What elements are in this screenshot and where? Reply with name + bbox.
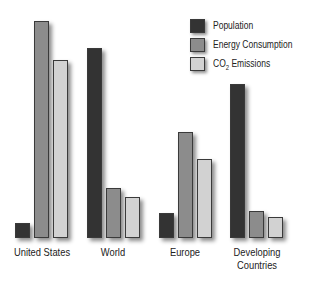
legend-label-population: Population [213,20,253,31]
bar-united-states-population [15,223,30,238]
category-label-developing-1: Developing [223,246,291,259]
legend-label-energy: Energy Consumption [213,39,292,50]
bar-united-states-energy-consumption [34,21,49,238]
bar-developing-countries-co2-emissions [268,217,283,238]
bar-developing-countries-population [230,84,245,238]
bar-world-co2-emissions [125,197,140,238]
category-label-united-states: United States [8,246,76,259]
bar-world-energy-consumption [106,188,121,238]
legend-swatch-co2 [190,57,205,71]
bar-europe-energy-consumption [178,132,193,238]
legend-label-co2: CO2 Emissions [213,58,270,71]
category-label-world: World [79,246,147,259]
bar-europe-co2-emissions [197,159,212,238]
bar-developing-countries-energy-consumption [249,211,264,238]
bar-world-population [87,48,102,238]
bar-united-states-co2-emissions [53,60,68,238]
legend-swatch-energy [190,38,205,52]
category-label-europe: Europe [151,246,219,259]
bar-europe-population [159,213,174,238]
category-label-developing-2: Countries [223,259,291,272]
legend-swatch-population [190,19,205,33]
